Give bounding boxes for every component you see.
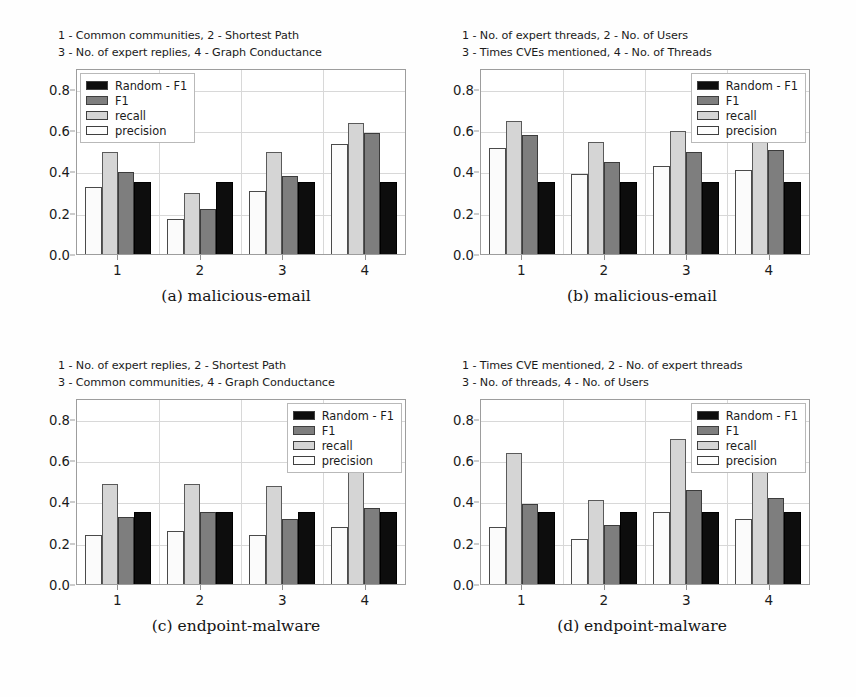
y-tick-label: 0.4 xyxy=(49,495,70,510)
x-tick-mark xyxy=(117,255,118,260)
legend-label: precision xyxy=(726,454,777,468)
panel-a-caption: (a) malicious-email xyxy=(40,287,432,305)
legend-item[interactable]: precision xyxy=(697,453,798,468)
legend-item[interactable]: Random - F1 xyxy=(86,78,187,93)
legend-label: recall xyxy=(726,439,757,453)
random-f1-bar xyxy=(538,182,554,254)
plot-area: Random - F1F1recallprecision xyxy=(480,69,810,255)
panel-b-caption: (b) malicious-email xyxy=(444,287,840,305)
recall-bar xyxy=(670,131,686,254)
precision-bar xyxy=(85,187,101,254)
chart-d: 0.00.20.40.60.8Random - F1F1recallprecis… xyxy=(444,391,812,613)
y-tick-mark xyxy=(474,419,479,420)
y-tick-label: 0.6 xyxy=(49,124,70,139)
legend-swatch-icon xyxy=(697,96,719,105)
y-tick-label: 0.6 xyxy=(453,124,474,139)
chart-legend[interactable]: Random - F1F1recallprecision xyxy=(80,73,195,143)
random-f1-bar xyxy=(620,182,636,254)
legend-label: recall xyxy=(322,439,353,453)
recall-bar xyxy=(184,484,200,584)
legend-item[interactable]: Random - F1 xyxy=(697,408,798,423)
f1-bar xyxy=(768,498,784,584)
f1-bar xyxy=(686,490,702,584)
legend-item[interactable]: recall xyxy=(697,108,798,123)
legend-label: precision xyxy=(726,124,777,138)
x-tick-label: 2 xyxy=(599,592,608,608)
legend-label: recall xyxy=(115,109,146,123)
x-tick-label: 3 xyxy=(278,592,287,608)
random-f1-bar xyxy=(620,512,636,584)
y-tick-mark xyxy=(70,585,75,586)
panel-d-key-line-1: 1 - Times CVE mentioned, 2 - No. of expe… xyxy=(462,358,840,375)
recall-bar xyxy=(588,142,604,254)
precision-bar xyxy=(249,191,265,254)
legend-swatch-icon xyxy=(697,441,719,450)
plot-area: Random - F1F1recallprecision xyxy=(480,399,810,585)
legend-item[interactable]: recall xyxy=(293,438,394,453)
y-tick-mark xyxy=(474,461,479,462)
legend-item[interactable]: Random - F1 xyxy=(697,78,798,93)
legend-swatch-icon xyxy=(697,456,719,465)
x-tick-mark xyxy=(200,585,201,590)
f1-bar xyxy=(364,133,380,254)
x-tick-mark xyxy=(282,255,283,260)
recall-bar xyxy=(184,193,200,254)
f1-bar xyxy=(200,512,216,584)
y-tick-mark xyxy=(474,172,479,173)
legend-item[interactable]: precision xyxy=(86,123,187,138)
legend-item[interactable]: precision xyxy=(293,453,394,468)
y-axis: 0.00.20.40.60.8 xyxy=(40,61,74,283)
gridline-vertical xyxy=(563,70,564,254)
chart-legend[interactable]: Random - F1F1recallprecision xyxy=(691,73,806,143)
legend-swatch-icon xyxy=(697,126,719,135)
chart-legend[interactable]: Random - F1F1recallprecision xyxy=(691,403,806,473)
f1-bar xyxy=(686,152,702,254)
chart-a: 0.00.20.40.60.8Random - F1F1recallprecis… xyxy=(40,61,408,283)
x-tick-label: 1 xyxy=(517,592,526,608)
panel-a: 1 - Common communities, 2 - Shortest Pat… xyxy=(40,28,432,343)
x-tick-label: 3 xyxy=(682,592,691,608)
random-f1-bar xyxy=(784,182,800,254)
precision-bar xyxy=(167,219,183,254)
random-f1-bar xyxy=(134,512,150,584)
legend-item[interactable]: F1 xyxy=(697,423,798,438)
gridline-vertical xyxy=(241,70,242,254)
legend-item[interactable]: precision xyxy=(697,123,798,138)
precision-bar xyxy=(167,531,183,584)
x-tick-mark xyxy=(521,585,522,590)
legend-label: recall xyxy=(726,109,757,123)
random-f1-bar xyxy=(216,182,232,254)
precision-bar xyxy=(653,512,669,584)
f1-bar xyxy=(118,517,134,584)
gridline-vertical xyxy=(159,400,160,584)
chart-legend[interactable]: Random - F1F1recallprecision xyxy=(287,403,402,473)
legend-swatch-icon xyxy=(697,81,719,90)
x-tick-mark xyxy=(365,255,366,260)
y-tick-label: 0.2 xyxy=(453,536,474,551)
x-tick-mark xyxy=(604,585,605,590)
legend-label: Random - F1 xyxy=(115,79,187,93)
x-tick-label: 2 xyxy=(599,262,608,278)
legend-swatch-icon xyxy=(697,426,719,435)
legend-item[interactable]: Random - F1 xyxy=(293,408,394,423)
x-tick-mark xyxy=(365,585,366,590)
y-tick-label: 0.8 xyxy=(453,412,474,427)
y-tick-mark xyxy=(70,213,75,214)
f1-bar xyxy=(200,209,216,254)
legend-item[interactable]: F1 xyxy=(697,93,798,108)
panel-b-key-line-1: 1 - No. of expert threads, 2 - No. of Us… xyxy=(462,28,840,45)
legend-item[interactable]: F1 xyxy=(86,93,187,108)
legend-item[interactable]: F1 xyxy=(293,423,394,438)
x-tick-label: 3 xyxy=(682,262,691,278)
legend-item[interactable]: recall xyxy=(697,438,798,453)
legend-item[interactable]: recall xyxy=(86,108,187,123)
legend-label: precision xyxy=(322,454,373,468)
y-tick-label: 0.8 xyxy=(49,82,70,97)
gridline-vertical xyxy=(645,70,646,254)
precision-bar xyxy=(331,144,347,254)
x-tick-mark xyxy=(686,585,687,590)
legend-swatch-icon xyxy=(293,456,315,465)
x-tick-mark xyxy=(521,255,522,260)
panel-c-key: 1 - No. of expert replies, 2 - Shortest … xyxy=(58,358,432,391)
panel-b: 1 - No. of expert threads, 2 - No. of Us… xyxy=(444,28,840,343)
